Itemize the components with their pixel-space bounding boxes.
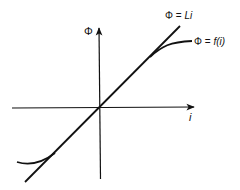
y-axis-label: Φ [84,25,93,37]
linear-curve-label: Φ = Li [165,10,193,21]
x-axis [12,107,194,108]
linear-label-prefix: Φ = [165,10,184,21]
y-axis [99,28,101,179]
nonlinear-curve-label: Φ = f(i) [194,36,225,47]
linear-label-expr: Li [184,10,193,21]
nonlinear-label-prefix: Φ = [194,36,213,47]
nonlinear-label-expr: f(i) [213,36,225,47]
flux-current-diagram: Φ i Φ = Li Φ = f(i) [0,0,240,190]
x-axis-label: i [189,111,192,123]
